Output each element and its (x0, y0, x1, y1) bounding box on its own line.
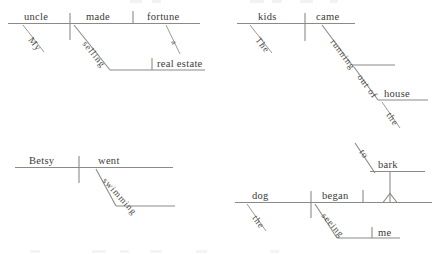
d1-gerund-object-real-estate: real estate (157, 58, 203, 69)
top-edge-artifact (130, 0, 338, 3)
d4-infinitive-verb-bark: bark (378, 159, 398, 170)
d3-verb-went: went (98, 155, 120, 166)
diagram-3: Betsy went swimming (15, 155, 175, 217)
d1-object-fortune: fortune (147, 11, 179, 22)
d4-subject-dog: dog (252, 190, 269, 201)
diagram-2: kids came The running out of house the (237, 11, 428, 128)
d2-participle-running: running (328, 37, 357, 71)
diagram-sheet: uncle made fortune My a selling real est… (0, 0, 437, 254)
d1-subject-uncle: uncle (24, 11, 48, 22)
d4-gerund-object-me: me (378, 227, 391, 238)
d2-modifier-the: The (253, 35, 271, 55)
d1-verb-made: made (86, 11, 110, 22)
sentence-diagrams-canvas: uncle made fortune My a selling real est… (0, 0, 437, 254)
diagram-4: dog began the seeing me to bark (235, 143, 432, 239)
d4-verb-began: began (322, 190, 349, 201)
d4-gerund-seeing: seeing (319, 211, 346, 240)
d1-modifier-a: a (169, 39, 179, 47)
diagram-1: uncle made fortune My a selling real est… (8, 11, 205, 70)
d1-gerund-selling: selling (80, 39, 107, 69)
d1-modifier-my: My (26, 35, 43, 53)
d2-subject-kids: kids (258, 11, 277, 22)
d3-participle-swimming: swimming (101, 176, 140, 217)
d2-prep-object-house: house (384, 88, 410, 99)
bottom-edge-artifact (30, 250, 279, 253)
d2-verb-came: came (316, 11, 339, 22)
d2-preposition-out-of: out of (355, 72, 379, 100)
d3-subject-betsy: Betsy (29, 155, 55, 166)
